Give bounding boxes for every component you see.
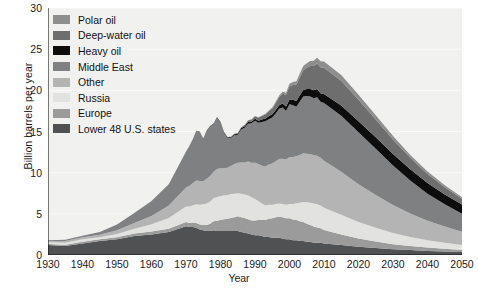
x-tick-label: 2040 <box>416 258 439 270</box>
legend-swatch-icon <box>53 15 70 24</box>
legend-swatch-icon <box>53 62 70 71</box>
legend-label: Other <box>78 76 104 88</box>
x-tick-label: 1940 <box>71 258 94 270</box>
x-tick-label: 1930 <box>36 258 59 270</box>
legend-label: Russia <box>78 92 110 104</box>
y-tick-label: 15 <box>16 126 42 138</box>
x-tick-label: 1960 <box>140 258 163 270</box>
chart-figure: Billion barrels per year 051015202530 19… <box>0 0 478 290</box>
y-tick-label: 20 <box>16 84 42 96</box>
legend-swatch-icon <box>53 78 70 87</box>
legend-swatch-icon <box>53 31 70 40</box>
legend-label: Europe <box>78 107 112 119</box>
legend-swatch-icon <box>53 93 70 102</box>
legend-item: Deep-water oil <box>53 28 203 44</box>
x-tick-label: 1950 <box>105 258 128 270</box>
y-tick-label: 5 <box>16 208 42 220</box>
legend-item: Heavy oil <box>53 43 203 59</box>
legend-label: Polar oil <box>78 14 116 26</box>
y-tick-label: 10 <box>16 167 42 179</box>
y-tick-label: 25 <box>16 43 42 55</box>
x-tick-label: 2000 <box>278 258 301 270</box>
legend-item: Middle East <box>53 59 203 75</box>
x-axis-title: Year <box>0 272 478 284</box>
legend-label: Heavy oil <box>78 45 121 57</box>
y-axis-tick-labels: 051015202530 <box>14 0 42 290</box>
legend-label: Deep-water oil <box>78 29 146 41</box>
legend-item: Russia <box>53 90 203 106</box>
legend-label: Lower 48 U.S. states <box>78 123 175 135</box>
legend-swatch-icon <box>53 46 70 55</box>
x-tick-label: 2030 <box>381 258 404 270</box>
y-tick-label: 30 <box>16 2 42 14</box>
legend-label: Middle East <box>78 61 133 73</box>
legend-swatch-icon <box>53 109 70 118</box>
x-tick-label: 1990 <box>243 258 266 270</box>
legend-item: Other <box>53 74 203 90</box>
legend-swatch-icon <box>53 124 70 133</box>
legend-item: Europe <box>53 106 203 122</box>
x-tick-label: 2020 <box>347 258 370 270</box>
x-tick-label: 1970 <box>174 258 197 270</box>
x-tick-label: 1980 <box>209 258 232 270</box>
legend-item: Lower 48 U.S. states <box>53 121 203 137</box>
x-tick-label: 2050 <box>450 258 473 270</box>
chart-legend: Polar oilDeep-water oilHeavy oilMiddle E… <box>53 12 203 137</box>
x-tick-label: 2010 <box>312 258 335 270</box>
legend-item: Polar oil <box>53 12 203 28</box>
